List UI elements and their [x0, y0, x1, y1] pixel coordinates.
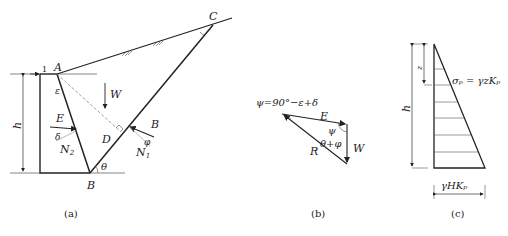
svg-text:E: E	[319, 110, 328, 123]
figure-c: h z σₚ = γzKₚ γHKₚ (c)	[400, 44, 500, 219]
svg-text:B: B	[150, 118, 159, 131]
pressure-distribution	[434, 44, 485, 168]
figure-a: h 1 W E δ N2 ε B φ N	[10, 10, 232, 219]
svg-text:ψ: ψ	[328, 125, 336, 136]
svg-text:N1: N1	[135, 146, 150, 160]
point-C: C	[209, 10, 218, 23]
point-B: B	[86, 179, 95, 192]
svg-text:ε: ε	[55, 86, 60, 96]
svg-text:θ: θ	[101, 161, 107, 172]
ground-surface	[57, 18, 232, 74]
point-A: A	[53, 61, 62, 74]
figure-b: ψ=90°−ε+δ E ψ θ+φ R W (b)	[256, 97, 366, 219]
point-D: D	[101, 133, 111, 146]
svg-text:θ+φ: θ+φ	[320, 138, 341, 149]
caption-c: (c)	[451, 208, 465, 219]
slip-plane	[90, 25, 213, 173]
caption-b: (b)	[311, 208, 325, 219]
svg-text:W: W	[110, 88, 123, 101]
svg-text:z: z	[415, 65, 424, 71]
svg-text:δ: δ	[55, 132, 60, 142]
svg-text:E: E	[55, 112, 64, 125]
caption-a: (a)	[64, 208, 78, 219]
retaining-wall	[40, 74, 90, 173]
svg-text:1: 1	[42, 65, 47, 74]
pressure-equation: σₚ = γzKₚ	[452, 75, 500, 86]
svg-text:h: h	[400, 105, 413, 112]
svg-text:W: W	[353, 142, 366, 155]
svg-text:R: R	[309, 145, 318, 158]
h-label: h	[11, 122, 24, 129]
force-E	[282, 114, 345, 124]
psi-equation: ψ=90°−ε+δ	[256, 97, 318, 108]
earth-pressure-arrow	[50, 127, 76, 129]
svg-text:γHKₚ: γHKₚ	[441, 180, 467, 191]
diagram-canvas: h 1 W E δ N2 ε B φ N	[0, 0, 508, 236]
svg-text:N2: N2	[59, 143, 75, 157]
